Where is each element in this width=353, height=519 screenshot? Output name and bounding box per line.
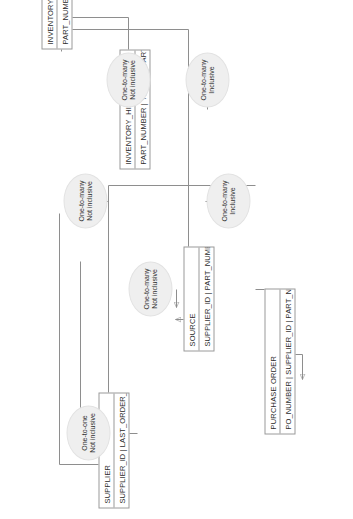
- entity-source[interactable]: SOURCE SUPPLIER_ID | PART_NUMBER | .....…: [183, 246, 214, 351]
- relationship-inclusivity: Inclusive: [207, 66, 216, 93]
- relationship-inclusivity: Not inclusive: [88, 413, 97, 453]
- relationship-supplier-last-order[interactable]: One-to-one Not inclusive: [66, 405, 110, 460]
- relationship-inventory-history[interactable]: One-to-many Not inclusive: [106, 52, 150, 107]
- entity-name: SOURCE: [184, 247, 199, 350]
- entity-purchase-order[interactable]: PURCHASE ORDER PO_NUMBER | SUPPLIER_ID |…: [264, 288, 295, 434]
- relationship-cardinality: One-to-many: [220, 180, 229, 221]
- entity-name: PURCHASE ORDER: [265, 289, 280, 433]
- relationship-cardinality: One-to-many: [77, 180, 86, 221]
- relationship-purchase-order-part[interactable]: One-to-many Not inclusive: [128, 261, 172, 316]
- relationship-inclusivity: Inclusive: [228, 187, 237, 214]
- er-diagram-canvas: SUPPLIER SUPPLIER_ID | LAST_ORDER_NUMBER…: [0, 0, 353, 519]
- relationship-source-part[interactable]: One-to-many Inclusive: [206, 173, 250, 228]
- relationship-cardinality: One-to-many: [199, 59, 208, 100]
- entity-attributes: SUPPLIER_ID | PART_NUMBER | ............…: [199, 247, 214, 350]
- er-diagram-stage: SUPPLIER SUPPLIER_ID | LAST_ORDER_NUMBER…: [0, 0, 353, 519]
- entity-name: INVENTORY: [42, 0, 57, 48]
- relationship-inclusivity: Not inclusive: [85, 181, 94, 221]
- entity-attributes: PART_NUMBER | ENG_DRAWING_NUM | ........…: [57, 0, 72, 48]
- relationship-inclusivity: Not inclusive: [128, 60, 137, 100]
- entity-attributes: SUPPLIER_ID | LAST_ORDER_NUMBER | ......…: [114, 393, 129, 507]
- connector-lines: [0, 0, 353, 519]
- relationship-inventory-history-quarter[interactable]: One-to-many Inclusive: [185, 52, 229, 107]
- entity-inventory[interactable]: INVENTORY PART_NUMBER | ENG_DRAWING_NUM …: [41, 0, 72, 49]
- relationship-cardinality: One-to-many: [142, 268, 151, 309]
- relationship-cardinality: One-to-many: [120, 59, 129, 100]
- entity-attributes: PO_NUMBER | SUPPLIER_ID | PART_NUMBER | …: [280, 289, 295, 433]
- relationship-supplier-source[interactable]: One-to-many Not inclusive: [63, 173, 107, 228]
- relationship-inclusivity: Not inclusive: [150, 269, 159, 309]
- relationship-cardinality: One-to-one: [80, 415, 89, 450]
